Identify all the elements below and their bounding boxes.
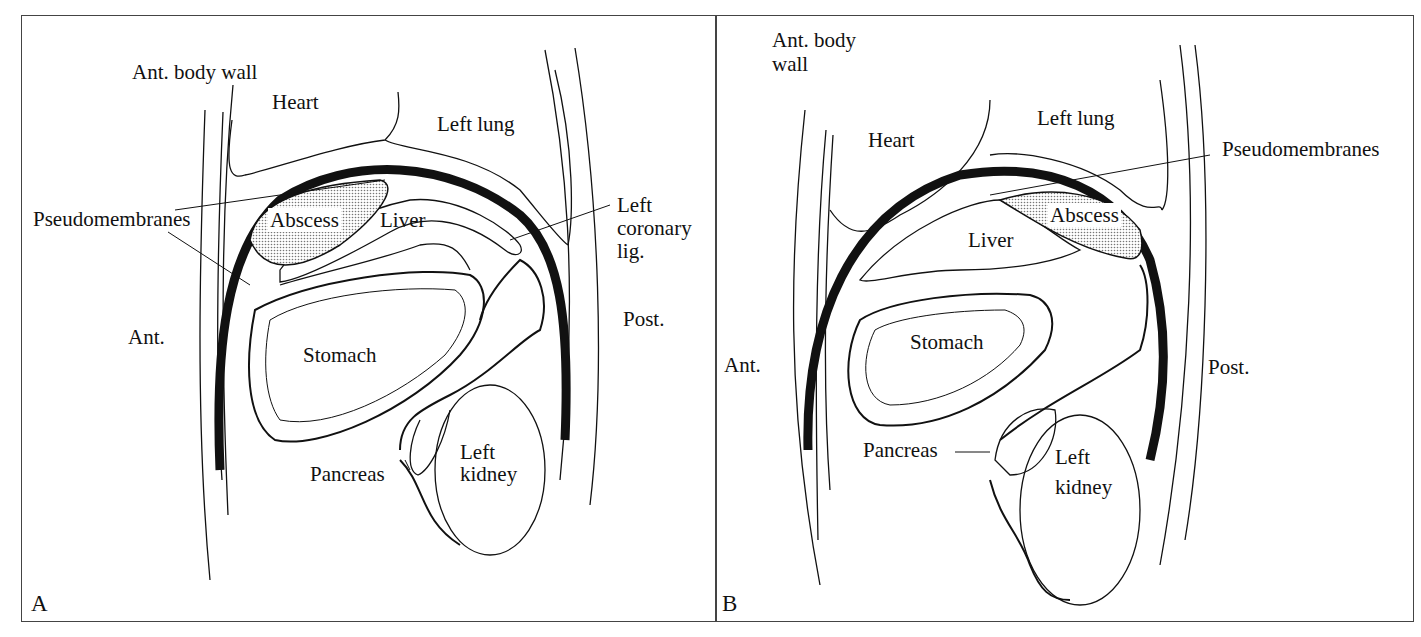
label-ant: Ant.: [724, 353, 761, 377]
label-post: Post.: [623, 307, 664, 331]
label-post: Post.: [1208, 355, 1249, 379]
panel-label-b: B: [722, 591, 737, 617]
label-left-coronary-lig-3: lig.: [617, 239, 644, 263]
panel-b-drawing: [794, 45, 1206, 605]
panel-a-drawing: [200, 48, 598, 580]
anatomy-drawing: [0, 0, 1421, 637]
label-ant-body-wall-2: wall: [772, 52, 808, 76]
label-heart: Heart: [868, 128, 915, 152]
label-left-coronary-lig-1: Left: [617, 193, 652, 217]
panel-label-a: A: [31, 591, 48, 617]
label-left-kidney-2: kidney: [460, 462, 517, 486]
label-liver: Liver: [380, 208, 425, 232]
label-heart: Heart: [272, 90, 319, 114]
label-left-lung: Left lung: [437, 112, 515, 136]
label-left-coronary-lig-2: coronary: [617, 216, 692, 240]
label-ant-body-wall: Ant. body wall: [132, 60, 257, 84]
label-ant-body-wall-1: Ant. body: [772, 28, 856, 52]
label-left-kidney-1: Left: [460, 440, 495, 464]
label-pancreas: Pancreas: [863, 438, 938, 462]
label-left-kidney-2: kidney: [1055, 475, 1112, 499]
label-abscess: Abscess: [1048, 203, 1121, 227]
label-left-lung: Left lung: [1037, 106, 1115, 130]
label-ant: Ant.: [128, 325, 165, 349]
label-stomach: Stomach: [303, 343, 377, 367]
label-liver: Liver: [968, 228, 1013, 252]
label-pseudomembranes: Pseudomembranes: [33, 207, 190, 231]
label-pseudomembranes: Pseudomembranes: [1222, 137, 1379, 161]
label-pancreas: Pancreas: [310, 462, 385, 486]
label-abscess: Abscess: [268, 208, 341, 232]
label-stomach: Stomach: [910, 330, 984, 354]
label-left-kidney-1: Left: [1055, 445, 1090, 469]
